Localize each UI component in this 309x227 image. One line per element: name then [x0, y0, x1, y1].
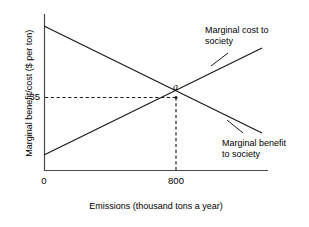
marginal-benefit-annotation-line2: to society [222, 149, 260, 159]
marginal-benefit-annotation: Marginal benefitto society [222, 138, 309, 159]
intersection-point-marker [175, 96, 178, 99]
marginal-cost-annotation: Marginal cost tosociety [205, 25, 305, 46]
marginal-cost-leader-line [211, 53, 228, 66]
marginal-benefit-annotation-line1: Marginal benefit [222, 138, 286, 148]
y-axis-tick-label-35: 35 [22, 91, 40, 102]
x-axis-title: Emissions (thousand tons a year) [44, 201, 268, 212]
x-axis-tick-label-0: 0 [36, 175, 52, 186]
x-axis-tick-label-800: 800 [160, 175, 192, 186]
marginal-cost-annotation-line2: society [205, 36, 233, 46]
intersection-point-label-a: a [173, 81, 178, 93]
economics-chart-figure: Marginal benefit/cost ($ per ton) Emissi… [0, 0, 309, 227]
marginal-cost-annotation-line1: Marginal cost to [205, 25, 269, 35]
